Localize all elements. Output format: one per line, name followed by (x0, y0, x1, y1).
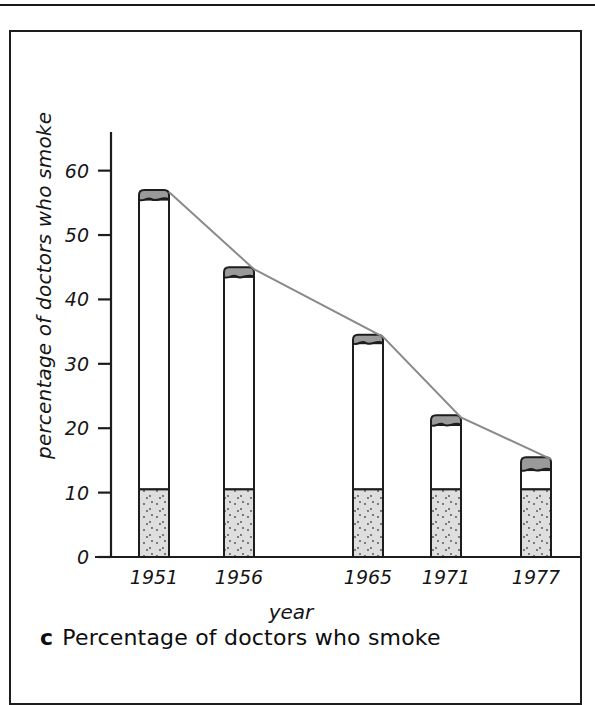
figure-caption: cPercentage of doctors who smoke (40, 625, 560, 650)
x-category-label: 1977 (512, 566, 560, 588)
page-top-rule (0, 4, 595, 6)
bar-burning-tip (139, 190, 169, 200)
bar-filter-base (431, 489, 461, 557)
bars-group (139, 190, 551, 557)
y-tick-label: 60 (65, 160, 89, 182)
caption-letter: c (40, 625, 53, 650)
bar-cigarette (139, 190, 169, 557)
x-category-label: 1956 (215, 566, 263, 588)
cigarette-bar-chart: 0102030405060 19511956196519711977 (11, 32, 584, 705)
bar-cigarette (224, 267, 254, 557)
bar-cigarette (431, 415, 461, 557)
bar-filter-base (224, 489, 254, 557)
y-tick-label: 0 (77, 546, 89, 568)
bar-filter-base (353, 489, 383, 557)
caption-text: Percentage of doctors who smoke (62, 625, 441, 650)
x-category-label: 1971 (422, 566, 470, 588)
y-tick-label: 50 (65, 224, 89, 246)
bar-cigarette (521, 457, 551, 557)
bar-body (521, 470, 551, 489)
bar-filter-base (521, 489, 551, 557)
figure-frame: percentage of doctors who smoke year 010… (9, 30, 582, 705)
chart-canvas: 0102030405060 19511956196519711977 (11, 32, 584, 705)
y-tick-label: 40 (65, 288, 89, 310)
y-tick-group: 0102030405060 (65, 160, 111, 568)
bar-burning-tip (521, 457, 551, 471)
x-category-label: 1951 (130, 566, 178, 588)
bar-body (353, 343, 383, 489)
chart-area: percentage of doctors who smoke year 010… (11, 32, 584, 705)
y-tick-label: 10 (65, 482, 89, 504)
y-tick-label: 30 (65, 353, 89, 375)
bar-filter-base (139, 489, 169, 557)
bar-cigarette (353, 335, 383, 557)
figure-page: percentage of doctors who smoke year 010… (0, 0, 595, 705)
bar-body (224, 277, 254, 490)
y-tick-label: 20 (65, 417, 89, 439)
bar-body (139, 200, 169, 490)
x-category-group: 19511956196519711977 (130, 566, 560, 588)
x-category-label: 1965 (344, 566, 392, 588)
bar-body (431, 425, 461, 489)
bar-burning-tip (431, 415, 461, 425)
bar-burning-tip (224, 267, 254, 277)
bar-burning-tip (353, 335, 383, 344)
